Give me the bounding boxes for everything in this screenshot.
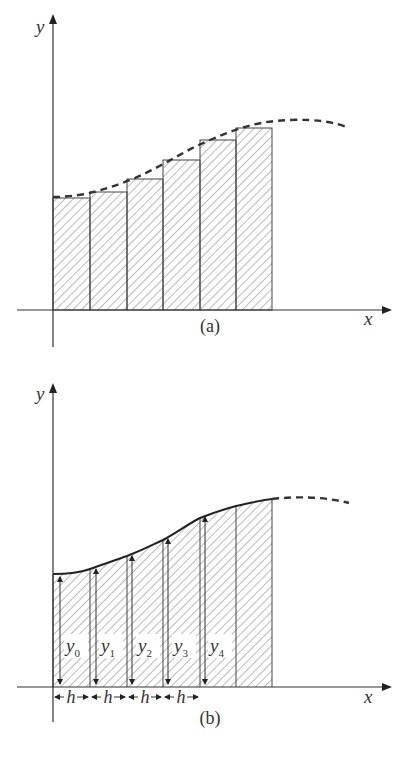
figure: y x (a) (0, 0, 410, 758)
bar-5 (200, 140, 236, 310)
h-label-1: h (67, 687, 76, 707)
bar-1 (53, 198, 90, 310)
bar-6 (236, 128, 272, 310)
curve-b-dashed (272, 497, 349, 503)
x-label-b: x (363, 686, 373, 707)
bar-3 (127, 179, 163, 310)
bar-4 (163, 160, 200, 310)
h-label-2: h (104, 687, 113, 707)
y-label-a: y (34, 16, 45, 37)
rectangles (53, 128, 272, 310)
h-label-3: h (141, 687, 150, 707)
width-markers: h h h h (55, 687, 198, 707)
caption-a: (a) (200, 316, 220, 337)
h-label-4: h (177, 687, 186, 707)
panel-a: y x (a) (17, 16, 390, 347)
y-label-b: y (34, 383, 45, 404)
caption-b: (b) (200, 708, 221, 729)
panel-b: y0 y1 y2 y3 y4 y x h h h h (b) (17, 383, 390, 729)
bar-2 (90, 192, 127, 310)
x-label-a: x (363, 308, 373, 329)
